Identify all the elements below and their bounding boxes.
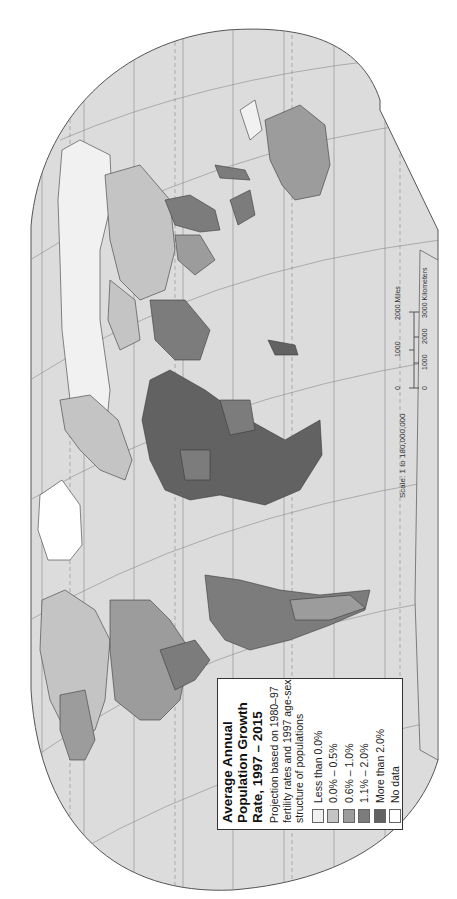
scale-text: Scale: 1 to 180,000,000 — [398, 413, 407, 498]
legend-swatch — [358, 809, 370, 823]
legend-box: Average Annual Population Growth Rate, 1… — [217, 678, 403, 830]
legend-title: Average Annual Population Growth Rate, 1… — [220, 678, 265, 823]
legend-item: 0.0% – 0.5% — [326, 683, 342, 823]
legend: Average Annual Population Growth Rate, 1… — [217, 676, 405, 830]
scale-bar: 0 1000 2000 Miles 0 1000 2000 3000 Kilom… — [392, 272, 442, 392]
legend-swatch — [389, 809, 401, 823]
scale-block: Scale: 1 to 180,000,000 0 1000 2000 Mile… — [392, 270, 442, 510]
legend-item: More than 2.0% — [372, 683, 388, 823]
legend-item: No data — [388, 683, 404, 823]
legend-items: Less than 0.0% 0.0% – 0.5% 0.6% – 1.0% 1… — [310, 683, 403, 823]
legend-swatch — [374, 809, 386, 823]
legend-swatch — [312, 809, 324, 823]
legend-item: 1.1% – 2.0% — [357, 683, 373, 823]
legend-item: 0.6% – 1.0% — [341, 683, 357, 823]
legend-swatch — [327, 809, 339, 823]
legend-swatch — [343, 809, 355, 823]
legend-item: Less than 0.0% — [310, 683, 326, 823]
legend-subtitle: Projection based on 1980–97 fertility ra… — [268, 673, 306, 823]
